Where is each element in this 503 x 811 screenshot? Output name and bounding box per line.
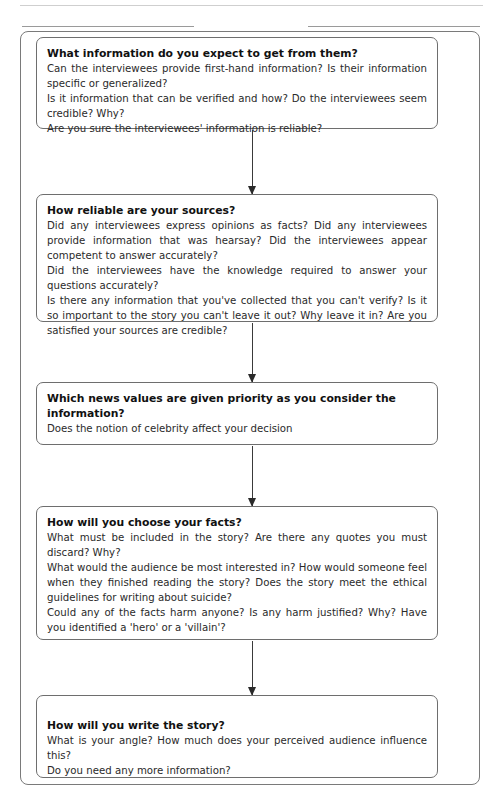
step-box-source-reliability: How reliable are your sources? Did any i… [36,194,438,322]
step-title: How will you write the story? [47,718,427,733]
flow-arrow-down-icon [252,130,253,194]
step-title: Which news values are given priority as … [47,391,427,421]
step-box-choose-facts: How will you choose your facts? What mus… [36,506,438,640]
step-text: Is it information that can be verified a… [47,91,427,121]
step-text: Did any interviewees express opinions as… [47,218,427,263]
step-box-news-values: Which news values are given priority as … [36,382,438,445]
step-text: What is your angle? How much does your p… [47,733,427,763]
step-title: How will you choose your facts? [47,515,427,530]
step-box-write-story: How will you write the story? What is yo… [36,695,438,778]
step-text: Could any of the facts harm anyone? Is a… [47,605,427,635]
step-text: Is there any information that you've col… [47,293,427,338]
step-text: Are you sure the interviewees' informati… [47,121,427,136]
step-text: What must be included in the story? Are … [47,530,427,560]
step-title: What information do you expect to get fr… [47,46,427,61]
step-text: Do you need any more information? [47,763,427,778]
step-title: How reliable are your sources? [47,203,427,218]
step-text: Does the notion of celebrity affect your… [47,421,427,436]
step-text: Did the interviewees have the knowledge … [47,263,427,293]
flow-arrow-down-icon [252,446,253,506]
flow-arrow-down-icon [252,323,253,382]
step-text: Can the interviewees provide first-hand … [47,61,427,91]
frame-rule-right [308,26,480,27]
step-text: What would the audience be most interest… [47,560,427,605]
flow-arrow-down-icon [252,641,253,695]
page-top-rule [20,5,483,6]
step-box-information-expected: What information do you expect to get fr… [36,37,438,129]
frame-rule-left [22,26,194,27]
